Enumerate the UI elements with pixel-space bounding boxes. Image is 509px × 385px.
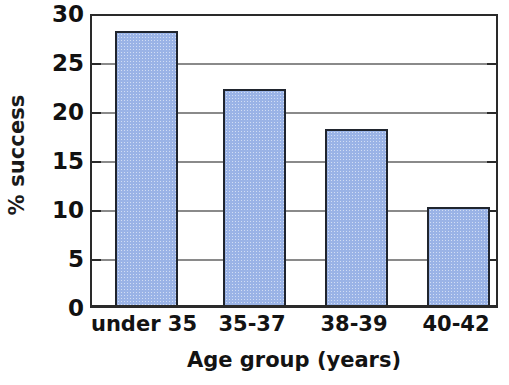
x-tick-label-0: under 35 xyxy=(91,312,197,336)
bar-40-42 xyxy=(427,207,490,305)
y-axis-title: % success xyxy=(0,0,34,310)
y-tick-label: 15 xyxy=(30,150,84,173)
y-tick-mark-10 xyxy=(92,210,101,212)
y-tick-label: 25 xyxy=(30,52,84,75)
y-axis-title-text: % success xyxy=(5,95,29,216)
y-axis-tick-labels: 30 25 20 15 10 5 0 xyxy=(30,0,84,322)
y-tick-label: 0 xyxy=(30,297,84,320)
x-tick-label-1: 35-37 xyxy=(218,312,285,336)
bar-35-37 xyxy=(223,89,286,305)
x-tick-label-3: 40-42 xyxy=(422,312,489,336)
y-tick-mark-15 xyxy=(92,161,101,163)
y-tick-mark-right-25 xyxy=(487,63,496,65)
y-tick-label: 10 xyxy=(30,199,84,222)
y-tick-mark-right-20 xyxy=(487,112,496,114)
y-tick-label: 5 xyxy=(30,248,84,271)
y-tick-mark-right-15 xyxy=(487,161,496,163)
bar-chart-figure: % success 30 25 20 15 10 5 0 xyxy=(0,0,509,385)
y-tick-label: 20 xyxy=(30,101,84,124)
x-tick-label-2: 38-39 xyxy=(320,312,387,336)
bar-38-39 xyxy=(325,129,388,305)
y-tick-mark-20 xyxy=(92,112,101,114)
y-tick-mark-5 xyxy=(92,259,101,261)
y-tick-mark-25 xyxy=(92,63,101,65)
x-axis-tick-labels: under 35 35-37 38-39 40-42 xyxy=(90,312,498,342)
x-axis-title: Age group (years) xyxy=(90,348,498,372)
bar-under-35 xyxy=(115,31,178,305)
plot-area xyxy=(90,14,498,308)
y-tick-label: 30 xyxy=(30,3,84,26)
